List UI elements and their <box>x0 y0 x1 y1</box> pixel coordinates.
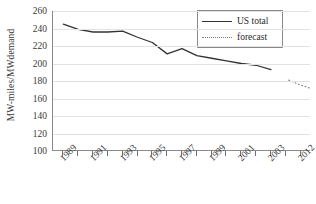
gridline <box>53 29 310 30</box>
y-tick-label: 140 <box>33 111 47 121</box>
legend-label-us-total: US total <box>237 16 268 26</box>
gridline <box>53 99 310 100</box>
y-tick-label: 180 <box>33 76 47 86</box>
plot-area: US total forecast <box>52 11 310 151</box>
y-tick-label: 160 <box>33 94 47 104</box>
chart-container: MW-miles/MWdemand 2602402202001801601401… <box>0 0 316 204</box>
gridline <box>53 134 310 135</box>
legend-solid-line-icon <box>202 21 232 22</box>
gridline <box>53 46 310 47</box>
y-axis-label-text: MW-miles/MWdemand <box>6 29 16 121</box>
y-tick-label: 120 <box>33 129 47 139</box>
y-tick-label: 260 <box>33 6 47 16</box>
gridline <box>53 116 310 117</box>
legend-item-us-total: US total <box>202 14 278 28</box>
y-tick-label: 220 <box>33 41 47 51</box>
y-axis-tick-labels: 260240220200180160140120100 <box>18 0 50 160</box>
legend-item-forecast: forecast <box>202 30 278 44</box>
y-tick-label: 100 <box>33 146 47 156</box>
gridline <box>53 64 310 65</box>
legend-dotted-line-icon <box>202 37 232 38</box>
y-tick-label: 240 <box>33 24 47 34</box>
x-axis-tick-labels: 198919911993199519971999200120032012 <box>0 156 316 204</box>
gridline <box>53 81 310 82</box>
y-tick-label: 200 <box>33 59 47 69</box>
legend-label-forecast: forecast <box>237 32 267 42</box>
gridline <box>53 11 310 12</box>
